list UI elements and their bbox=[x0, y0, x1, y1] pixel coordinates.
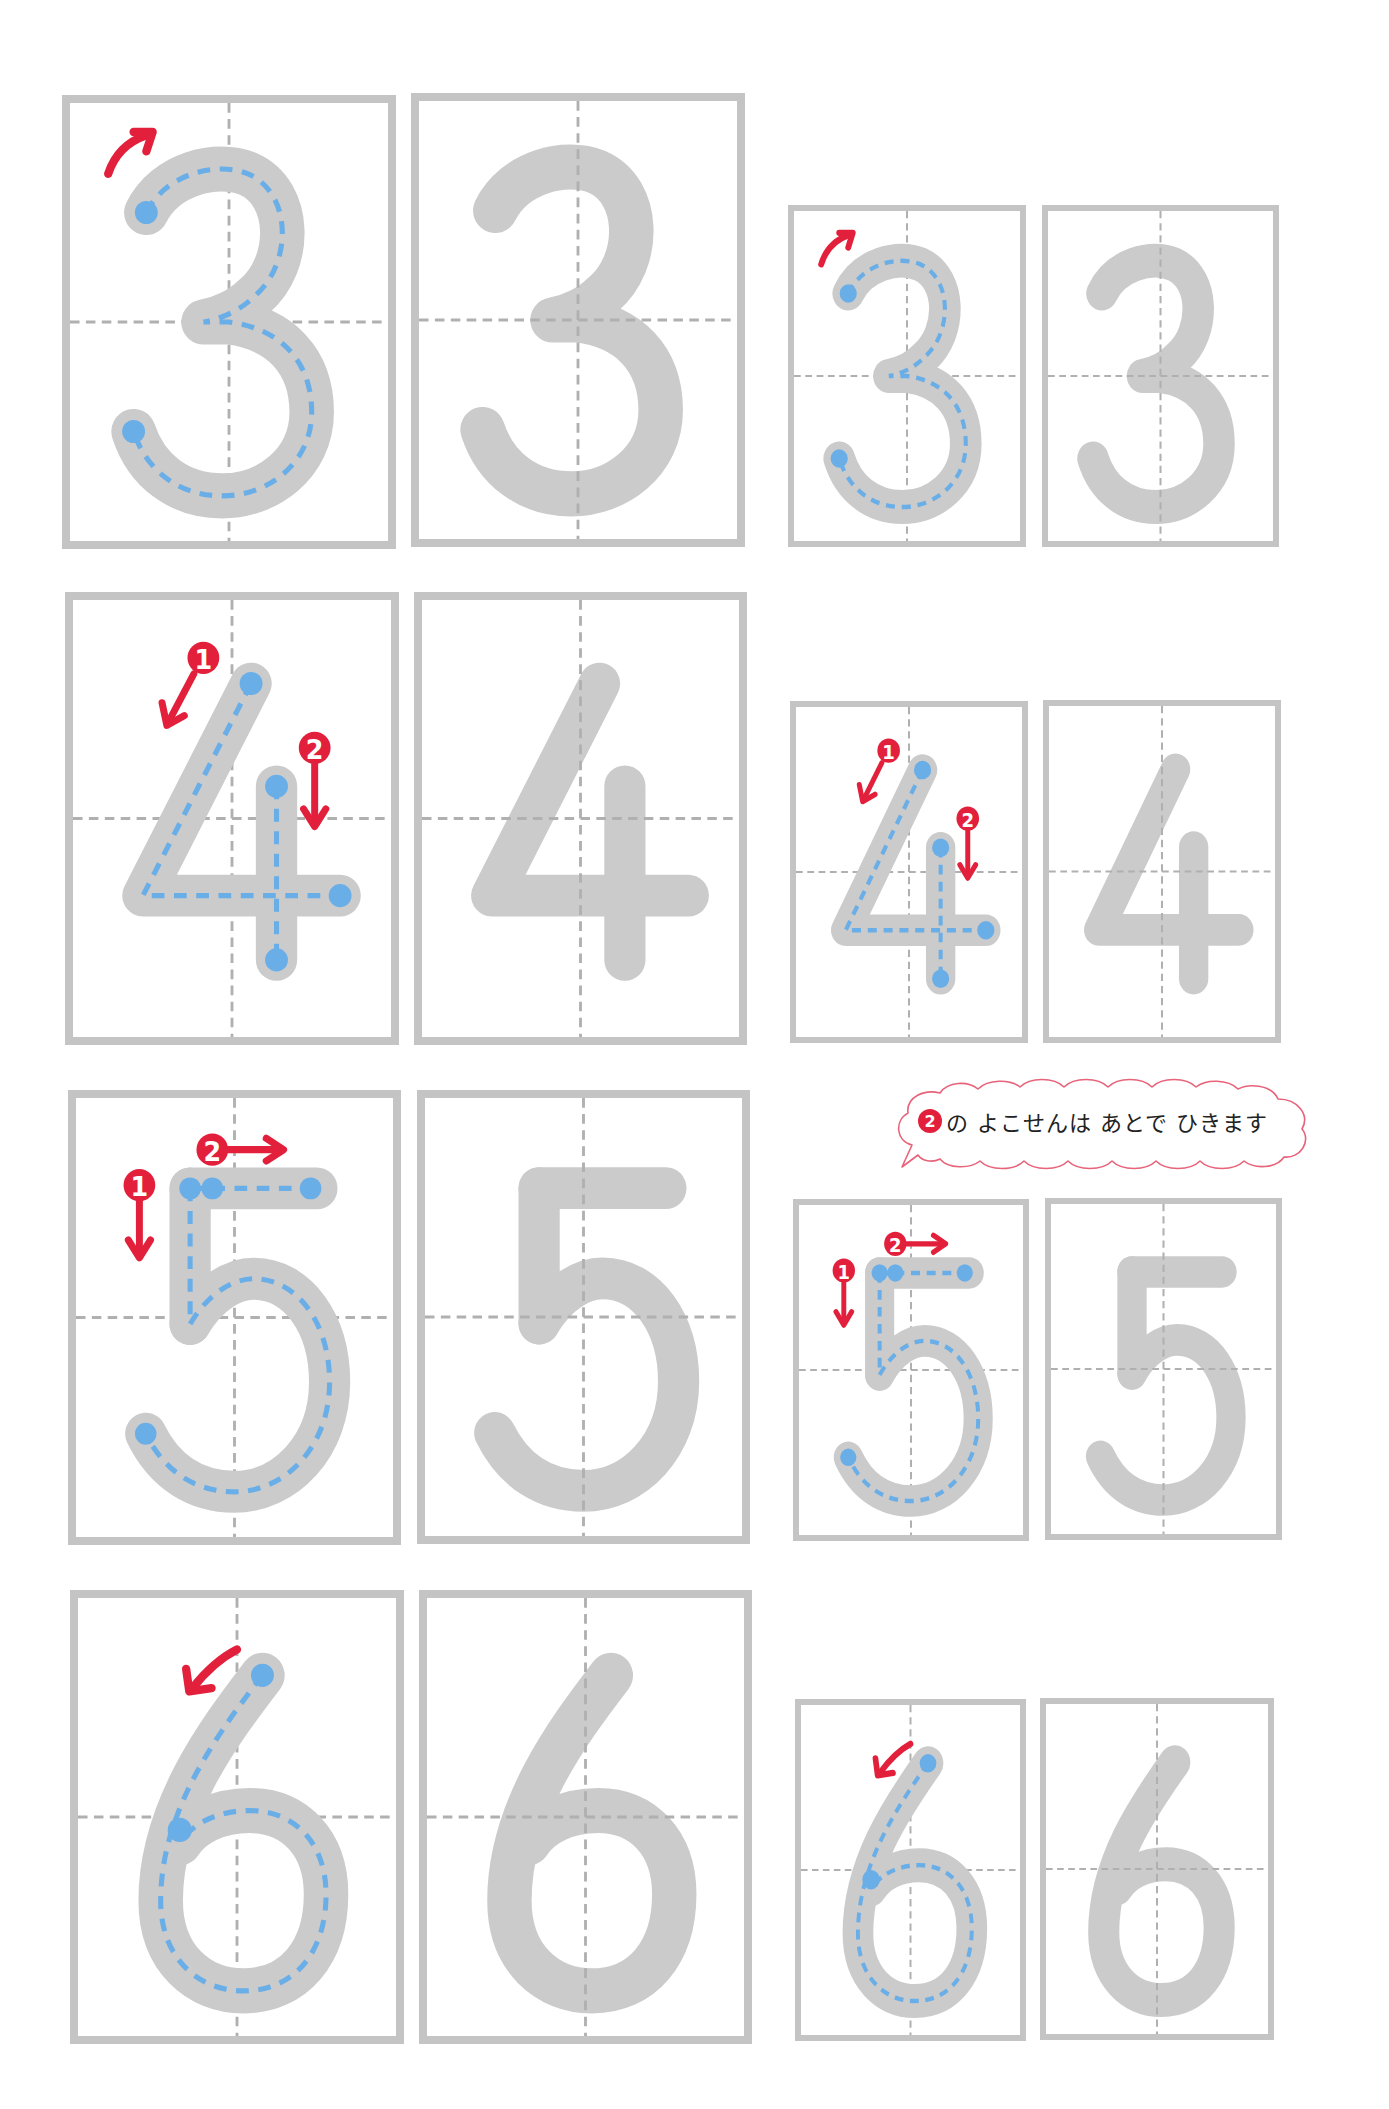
trace-box-6-guided-small[interactable] bbox=[795, 1699, 1026, 2041]
start-dot bbox=[135, 201, 158, 224]
trace-box-5-faded-small[interactable] bbox=[1045, 1198, 1282, 1540]
trace-box-3-faded-large[interactable] bbox=[411, 93, 745, 547]
trace-box-6-faded-small[interactable] bbox=[1040, 1698, 1274, 2040]
svg-text:1: 1 bbox=[838, 1261, 850, 1283]
svg-text:1: 1 bbox=[195, 645, 213, 675]
svg-text:2: 2 bbox=[889, 1235, 901, 1257]
trace-box-4-guided-small[interactable]: 1 2 bbox=[790, 701, 1028, 1043]
trace-box-4-faded-small[interactable] bbox=[1043, 700, 1281, 1043]
trace-box-4-faded-large[interactable] bbox=[414, 592, 747, 1045]
trace-box-6-guided-large[interactable] bbox=[70, 1590, 404, 2044]
svg-text:1: 1 bbox=[882, 742, 895, 764]
trace-box-5-faded-large[interactable] bbox=[417, 1090, 750, 1544]
trace-box-3-guided-small[interactable] bbox=[788, 205, 1026, 547]
note-bubble: 2 の よこせんは あとで ひきます bbox=[888, 1075, 1316, 1171]
trace-box-5-guided-small[interactable]: 1 2 bbox=[793, 1199, 1029, 1541]
trace-box-3-faded-small[interactable] bbox=[1042, 205, 1279, 547]
trace-box-5-guided-large[interactable]: 1 2 bbox=[68, 1090, 401, 1545]
trace-box-6-faded-large[interactable] bbox=[419, 1590, 752, 2044]
svg-text:2: 2 bbox=[203, 1137, 221, 1167]
trace-box-3-guided-large[interactable] bbox=[62, 95, 396, 549]
svg-text:2: 2 bbox=[961, 810, 974, 832]
note-label: の よこせんは あとで ひきます bbox=[946, 1105, 1268, 1137]
stroke-number-badge: 2 bbox=[918, 1109, 942, 1133]
note-text: 2 の よこせんは あとで ひきます bbox=[918, 1105, 1268, 1137]
trace-box-4-guided-large[interactable]: 1 2 bbox=[65, 592, 399, 1045]
